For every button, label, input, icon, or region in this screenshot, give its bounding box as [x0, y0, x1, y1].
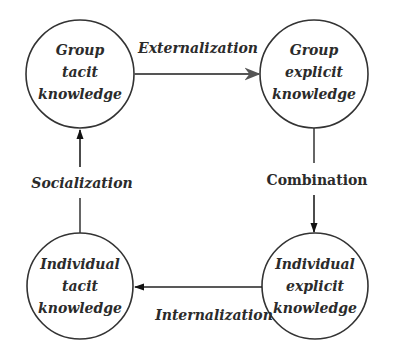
node-label-line: Individual [274, 256, 355, 272]
edge-label: Combination [267, 172, 368, 188]
node-label-line: tacit [62, 64, 98, 80]
node-group-explicit-knowledge: Group explicit knowledge [260, 20, 368, 128]
edge-label: Internalization [154, 307, 273, 323]
node-label-line: knowledge [272, 86, 356, 102]
node-label-line: knowledge [38, 300, 122, 316]
node-individual-tacit-knowledge: Individual tacit knowledge [27, 233, 133, 339]
node-label-line: knowledge [38, 86, 122, 102]
edge-externalization: Externalization [134, 40, 259, 74]
node-group-tacit-knowledge: Group tacit knowledge [26, 20, 134, 128]
edge-combination: Combination [267, 128, 368, 232]
node-label-line: explicit [286, 278, 345, 294]
node-label-line: Group [56, 42, 105, 58]
edge-label: Socialization [31, 175, 132, 191]
knowledge-conversion-diagram: Group tacit knowledge Group explicit kno… [0, 0, 406, 360]
edge-label: Externalization [137, 40, 258, 56]
node-individual-explicit-knowledge: Individual explicit knowledge [262, 233, 368, 339]
node-label-line: tacit [62, 278, 98, 294]
edge-internalization: Internalization [135, 287, 273, 323]
node-label-line: knowledge [273, 300, 357, 316]
node-label-line: Group [290, 42, 339, 58]
node-label-line: Individual [39, 256, 120, 272]
node-label-line: explicit [285, 64, 344, 80]
edge-socialization: Socialization [31, 130, 132, 233]
